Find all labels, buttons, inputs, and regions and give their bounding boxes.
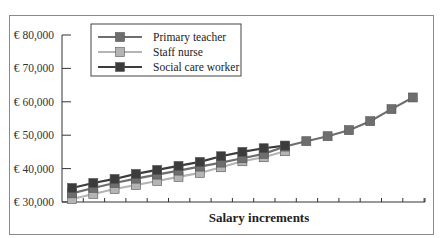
data-point-marker xyxy=(174,161,183,170)
legend-marker-icon xyxy=(116,33,125,42)
legend-label: Staff nurse xyxy=(153,46,203,58)
y-tick-label: € 30,000 xyxy=(14,196,55,209)
legend: Primary teacherStaff nurseSocial care wo… xyxy=(91,24,241,76)
data-point-marker xyxy=(323,132,332,141)
legend-marker-icon xyxy=(116,63,125,72)
legend-label: Social care worker xyxy=(153,61,239,73)
data-point-marker xyxy=(344,126,353,135)
y-tick-label: € 40,000 xyxy=(14,163,55,176)
data-point-marker xyxy=(408,93,417,102)
y-tick-label: € 50,000 xyxy=(14,129,55,142)
data-point-marker xyxy=(281,141,290,150)
data-point-marker xyxy=(68,183,77,192)
data-point-marker xyxy=(110,174,119,183)
data-point-marker xyxy=(238,147,247,156)
x-axis xyxy=(62,198,425,202)
y-tick-label: € 80,000 xyxy=(14,29,55,42)
x-axis-title: Salary increments xyxy=(209,210,310,225)
data-point-marker xyxy=(387,105,396,114)
data-point-marker xyxy=(302,137,311,146)
y-axis: € 30,000€ 40,000€ 50,000€ 60,000€ 70,000… xyxy=(14,29,71,209)
line-chart: € 30,000€ 40,000€ 50,000€ 60,000€ 70,000… xyxy=(0,0,442,238)
y-tick-label: € 60,000 xyxy=(14,96,55,109)
data-point-marker xyxy=(366,117,375,126)
data-point-marker xyxy=(131,169,140,178)
data-point-marker xyxy=(89,178,98,187)
data-point-marker xyxy=(195,157,204,166)
legend-label: Primary teacher xyxy=(153,31,226,44)
series-group xyxy=(68,93,418,204)
legend-marker-icon xyxy=(116,48,125,57)
data-point-marker xyxy=(153,165,162,174)
y-tick-label: € 70,000 xyxy=(14,62,55,75)
series-social-care-worker xyxy=(68,141,290,192)
series-primary-teacher xyxy=(68,93,418,198)
data-point-marker xyxy=(217,152,226,161)
data-point-marker xyxy=(259,144,268,153)
